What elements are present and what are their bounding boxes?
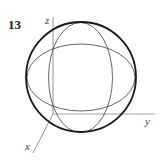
y-axis-label: y: [144, 115, 150, 127]
meridian-ellipse: [49, 23, 113, 133]
figure-number: 13: [8, 17, 22, 32]
sphere-outline: [26, 22, 136, 132]
sphere-diagram: 13 z y x: [0, 0, 164, 166]
z-axis-label: z: [44, 14, 50, 26]
x-axis: [33, 114, 53, 153]
x-axis-label: x: [24, 140, 30, 152]
equator-ellipse: [27, 44, 135, 111]
